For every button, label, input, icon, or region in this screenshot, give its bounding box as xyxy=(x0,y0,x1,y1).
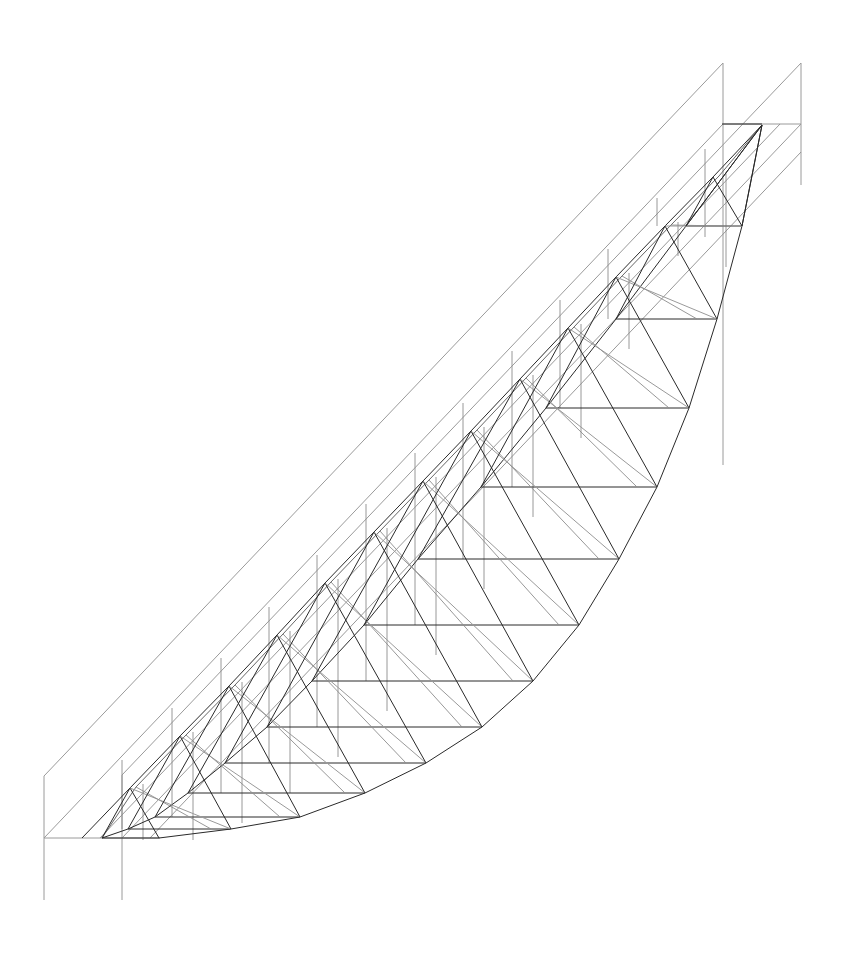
diagonal-member xyxy=(225,583,325,763)
diagonal-member xyxy=(312,481,423,681)
diagonal-member xyxy=(616,226,665,319)
diagonal-member xyxy=(429,480,559,625)
diagonal-member xyxy=(374,532,482,727)
diagonal-member xyxy=(277,635,426,763)
diagonal-member xyxy=(374,532,533,681)
diagonal-member xyxy=(477,430,599,559)
bottom-arc xyxy=(102,125,762,838)
projection-diagonal xyxy=(122,124,801,838)
diagonal-member xyxy=(568,328,689,408)
diagonal-member xyxy=(267,532,374,727)
inner-chord xyxy=(102,125,762,838)
diagonal-member xyxy=(283,634,406,763)
diagonal-member xyxy=(471,431,619,559)
diagonal-member xyxy=(616,277,689,408)
diagonal-member xyxy=(526,378,637,487)
projection-diagonal xyxy=(150,152,801,838)
diagonal-member xyxy=(423,481,579,625)
diagonal-member xyxy=(180,736,300,817)
truss-structure xyxy=(82,124,762,838)
diagonal-member xyxy=(471,431,579,625)
diagonal-member xyxy=(130,788,159,838)
gray-vertical-hangers xyxy=(122,149,726,840)
diagonal-member xyxy=(520,379,619,559)
diagonal-member xyxy=(616,277,717,319)
diagonal-member xyxy=(325,583,426,763)
diagonal-member xyxy=(155,686,229,817)
projection-diagonal xyxy=(44,63,723,776)
diagonal-member xyxy=(229,686,300,817)
diagonal-member xyxy=(686,125,762,226)
diagonal-member xyxy=(325,583,482,727)
projection-diagonal xyxy=(44,124,723,838)
diagonal-member xyxy=(418,379,520,559)
top-chord-offset xyxy=(102,125,762,838)
diagonal-member xyxy=(574,327,669,408)
projection-diagonal xyxy=(122,63,801,775)
diagonal-member xyxy=(229,686,365,793)
truss-diagram xyxy=(0,0,867,972)
diagonal-member xyxy=(130,788,231,829)
top-chord xyxy=(82,125,762,838)
diagonal-member xyxy=(742,125,762,226)
diagonal-member xyxy=(186,735,280,817)
diagonal-member xyxy=(622,276,697,319)
diagonal-member xyxy=(686,177,713,226)
diagonal-member xyxy=(364,431,471,625)
diagonal-member xyxy=(520,379,657,487)
